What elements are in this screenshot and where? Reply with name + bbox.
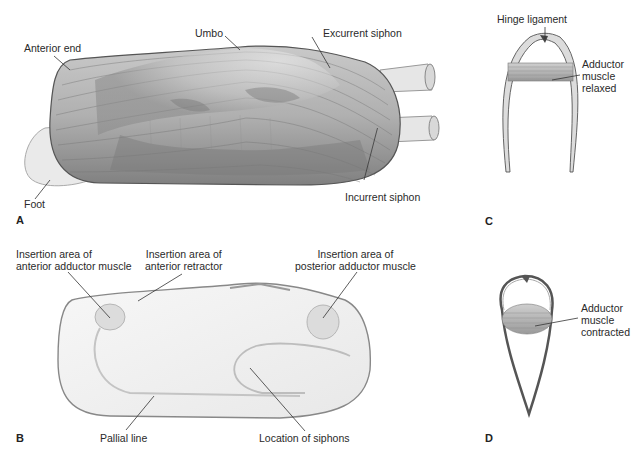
posterior-adductor-scar xyxy=(307,305,339,339)
label-anterior-adductor-insertion: Insertion area of anterior adductor musc… xyxy=(16,248,132,272)
panel-letter-c: C xyxy=(485,215,493,227)
label-location-of-siphons: Location of siphons xyxy=(259,432,349,444)
panel-d-cross-section-contracted xyxy=(501,276,578,414)
shell-interior-outline xyxy=(58,283,370,418)
panel-b-shell-interior xyxy=(58,272,370,431)
anterior-adductor-scar xyxy=(95,304,125,330)
adductor-muscle-contracted xyxy=(502,304,552,334)
panel-letter-b: B xyxy=(16,432,24,444)
label-incurrent-siphon: Incurrent siphon xyxy=(345,191,420,203)
clam-anatomy-illustration xyxy=(0,0,643,461)
label-hinge-ligament: Hinge ligament xyxy=(497,13,567,25)
label-pallial-line: Pallial line xyxy=(100,432,147,444)
label-anterior-end: Anterior end xyxy=(24,42,81,54)
label-adductor-contracted: Adductor muscle contracted xyxy=(581,302,630,338)
panel-a-shell-exterior xyxy=(25,36,439,199)
panel-letter-a: A xyxy=(16,214,24,226)
panel-letter-d: D xyxy=(485,432,493,444)
label-anterior-retractor-insertion: Insertion area of anterior retractor xyxy=(145,248,223,272)
label-foot: Foot xyxy=(24,198,45,210)
panel-c-cross-section-relaxed xyxy=(503,27,580,172)
label-adductor-relaxed: Adductor muscle relaxed xyxy=(582,58,624,94)
label-excurrent-siphon: Excurrent siphon xyxy=(323,27,402,39)
label-umbo: Umbo xyxy=(195,27,223,39)
label-posterior-adductor-insertion: Insertion area of posterior adductor mus… xyxy=(295,248,416,272)
